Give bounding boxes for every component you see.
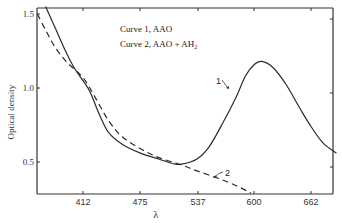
- y-axis-title: Optical density: [6, 84, 16, 139]
- optical-density-chart: 412 475 537 600 662 λ 1.5 1.0 0.5 Optica…: [0, 0, 342, 223]
- x-tick-label: 537: [190, 197, 205, 207]
- x-tick-label: 475: [132, 197, 147, 207]
- plot-frame: [37, 8, 333, 194]
- legend-curve-1: Curve 1, AAO: [120, 24, 173, 34]
- svg-text:1: 1: [216, 76, 221, 86]
- curve-2-label: 2: [213, 168, 230, 178]
- curve-1-solid: [46, 7, 337, 165]
- y-tick-label: 0.5: [23, 157, 35, 167]
- curve-1-label: 1: [216, 76, 229, 89]
- svg-text:2: 2: [225, 168, 230, 178]
- legend-curve-2: Curve 2, AAO + AH2: [120, 39, 197, 50]
- x-axis: 412 475 537 600 662 λ: [75, 8, 318, 220]
- y-tick-label: 1.5: [23, 9, 35, 19]
- y-tick-label: 1.0: [23, 83, 35, 93]
- x-axis-title: λ: [153, 208, 159, 220]
- x-tick-label: 412: [75, 197, 90, 207]
- x-tick-label: 600: [246, 197, 261, 207]
- x-tick-label: 662: [303, 197, 318, 207]
- legend: Curve 1, AAO Curve 2, AAO + AH2: [120, 24, 197, 50]
